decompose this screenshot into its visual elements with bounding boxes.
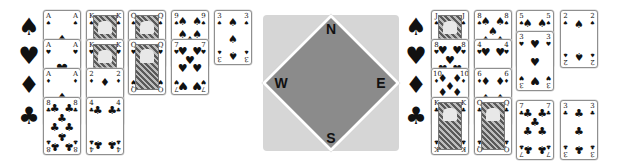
- hearts-pip-icon: ♥: [481, 46, 491, 57]
- clubs-pip-icon: ♣: [523, 126, 533, 137]
- west-card-8-of-clubs[interactable]: 8♣8♣8♣8♣♣♣♣♣♣♣♣♣: [43, 97, 81, 155]
- spades-icon: ♠: [216, 49, 223, 55]
- clubs-pip-icon: ♣: [64, 140, 74, 151]
- clubs-pip-icon: ♣: [537, 144, 547, 155]
- hearts-pip-icon: ♥: [192, 63, 202, 74]
- hearts-pip-icon: ♥: [192, 79, 202, 90]
- spades-pip-icon: ♠: [574, 51, 584, 62]
- west-card-7-of-hearts[interactable]: 7♥7♥7♥7♥♥♥♥♥♥♥♥: [171, 39, 209, 95]
- spades-icon: ♠: [562, 20, 569, 26]
- hearts-pip-icon: ♥: [495, 46, 505, 57]
- card-index: 3♣: [589, 144, 596, 157]
- clubs-icon: ♣: [562, 144, 569, 150]
- clubs-icon: ♣: [562, 110, 569, 116]
- diamonds-pip-icon: ♦: [481, 75, 491, 86]
- spades-pip-icon: ♠: [537, 17, 547, 28]
- compass-table: N E S W: [263, 15, 399, 151]
- card-index: 2♠: [589, 52, 596, 65]
- hearts-icon: ♥: [545, 41, 552, 47]
- diamonds-icon: ♦: [115, 78, 122, 84]
- spades-pip-icon: ♠: [228, 33, 238, 44]
- spades-pip-icon: ♠: [192, 16, 202, 27]
- clubs-pip-icon: ♣: [107, 139, 117, 150]
- clubs-pip-icon: ♣: [107, 104, 117, 115]
- clubs-pip-icon: ♣: [50, 140, 60, 151]
- east-hearts-suit-icon: ♥: [404, 44, 428, 68]
- card-index: 3♠: [216, 49, 223, 62]
- spades-icon: ♠: [216, 20, 223, 26]
- spades-icon: ♠: [243, 20, 250, 26]
- clubs-pip-icon: ♣: [93, 104, 103, 115]
- east-label: E: [376, 75, 385, 91]
- card-index: 2♠: [589, 13, 596, 26]
- west-spades-suit-icon: ♠: [17, 15, 41, 39]
- clubs-pip-icon: ♣: [574, 126, 584, 137]
- west-hearts-suit-icon: ♥: [17, 44, 41, 68]
- clubs-pip-icon: ♣: [574, 108, 584, 119]
- hearts-icon: ♥: [45, 49, 52, 55]
- west-card-3-of-spades[interactable]: 3♠3♠3♠3♠♠♠♠: [214, 10, 252, 65]
- clubs-pip-icon: ♣: [523, 144, 533, 155]
- hearts-icon: ♥: [518, 41, 525, 47]
- clubs-pip-icon: ♣: [537, 126, 547, 137]
- clubs-icon: ♣: [589, 144, 596, 150]
- hearts-pip-icon: ♥: [530, 57, 540, 68]
- card-index: A♦: [72, 71, 79, 84]
- card-index: 3♥: [518, 34, 525, 47]
- card-index: 3♣: [562, 144, 569, 157]
- hearts-pip-icon: ♥: [178, 63, 188, 74]
- card-index: 3♠: [243, 49, 250, 62]
- card-index: 2♠: [562, 52, 569, 65]
- card-index: A♦: [45, 71, 52, 84]
- spades-icon: ♠: [589, 52, 596, 58]
- hearts-pip-icon: ♥: [530, 75, 540, 86]
- card-index: 3♥: [545, 34, 552, 47]
- north-label: N: [326, 21, 336, 37]
- card-index: 2♦: [115, 71, 122, 84]
- face-card-portrait: [438, 102, 462, 150]
- west-card-4-of-clubs[interactable]: 4♣4♣4♣4♣♣♣♣♣: [86, 97, 124, 155]
- card-index: A♥: [45, 42, 52, 55]
- face-card-portrait: [481, 102, 505, 150]
- hearts-pip-icon: ♥: [178, 79, 188, 90]
- clubs-pip-icon: ♣: [93, 139, 103, 150]
- east-card-3-of-clubs[interactable]: 3♣3♣3♣3♣♣♣♣: [560, 100, 598, 160]
- east-card-q-of-clubs[interactable]: Q♣Q♣Q♣Q♣: [474, 97, 512, 155]
- west-card-q-of-hearts[interactable]: Q♥Q♥Q♥Q♥: [128, 39, 166, 95]
- east-card-3-of-hearts[interactable]: 3♥3♥3♥3♥♥♥♥: [516, 31, 554, 91]
- hearts-icon: ♥: [518, 75, 525, 81]
- card-index: 2♦: [88, 71, 95, 84]
- hearts-pip-icon: ♥: [530, 39, 540, 50]
- card-index: A♠: [45, 13, 52, 26]
- diamonds-icon: ♦: [72, 78, 79, 84]
- west-clubs-suit-icon: ♣: [17, 104, 41, 128]
- card-index: A♥: [72, 42, 79, 55]
- card-index: 3♣: [589, 103, 596, 116]
- east-card-2-of-spades[interactable]: 2♠2♠2♠2♠♠♠: [560, 10, 598, 68]
- diamonds-pip-icon: ♦: [495, 75, 505, 86]
- spades-icon: ♠: [562, 52, 569, 58]
- hearts-icon: ♥: [72, 49, 79, 55]
- spades-pip-icon: ♠: [523, 17, 533, 28]
- spades-pip-icon: ♠: [228, 50, 238, 61]
- card-index: 3♥: [518, 75, 525, 88]
- card-index: 3♥: [545, 75, 552, 88]
- west-label: W: [274, 75, 287, 91]
- card-index: 2♠: [562, 13, 569, 26]
- card-index: A♠: [72, 13, 79, 26]
- spades-icon: ♠: [72, 20, 79, 26]
- spades-pip-icon: ♠: [178, 16, 188, 27]
- spades-icon: ♠: [589, 20, 596, 26]
- diamonds-icon: ♦: [45, 78, 52, 84]
- spades-icon: ♠: [243, 49, 250, 55]
- east-card-k-of-clubs[interactable]: K♣K♣K♣K♣: [431, 97, 469, 155]
- diamonds-icon: ♦: [88, 78, 95, 84]
- spades-pip-icon: ♠: [574, 18, 584, 29]
- spades-icon: ♠: [45, 20, 52, 26]
- east-card-7-of-clubs[interactable]: 7♣7♣7♣7♣♣♣♣♣♣♣♣: [516, 100, 554, 160]
- east-spades-suit-icon: ♠: [404, 15, 428, 39]
- spades-pip-icon: ♠: [228, 17, 238, 28]
- card-index: 3♠: [216, 13, 223, 26]
- west-diamonds-suit-icon: ♦: [17, 73, 41, 97]
- card-index: 3♠: [243, 13, 250, 26]
